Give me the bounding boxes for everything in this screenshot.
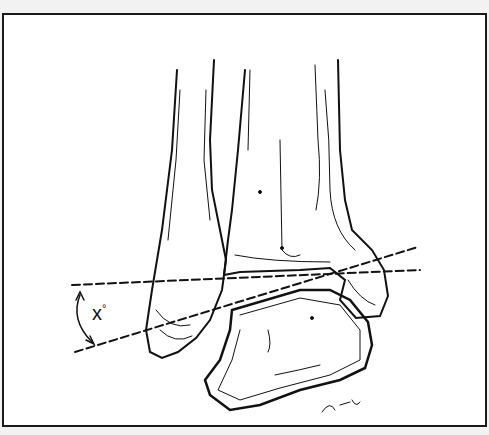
angle-arc: [77, 295, 92, 342]
tibia: [224, 60, 388, 318]
fibula: [146, 60, 226, 358]
angle-label: x°: [92, 302, 106, 325]
joint-axis-line: [75, 247, 418, 352]
artist-signature: [322, 400, 360, 412]
ankle-illustration: [0, 0, 489, 435]
